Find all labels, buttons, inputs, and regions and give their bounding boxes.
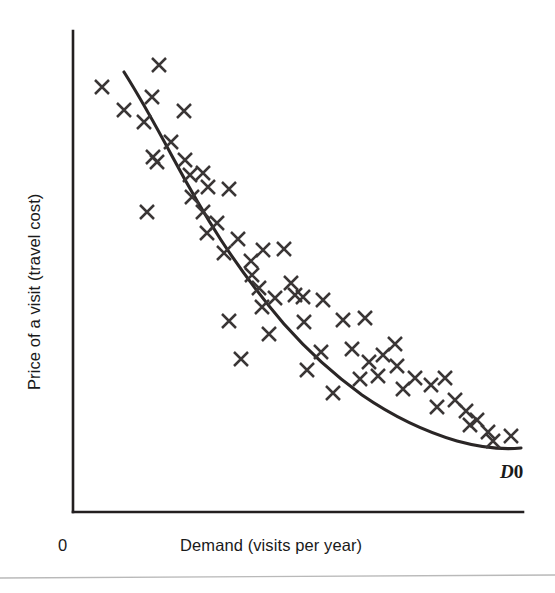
scatter-marker <box>388 337 402 351</box>
scatter-marker <box>256 243 270 257</box>
scatter-marker <box>277 242 291 256</box>
scatter-marker <box>152 58 166 72</box>
scatter-marker <box>353 372 367 386</box>
scatter-marker <box>117 103 131 117</box>
scatter-marker <box>150 155 164 169</box>
scatter-marker <box>362 355 376 369</box>
demand-curve-label-number: 0 <box>514 461 524 482</box>
scatter-marker <box>390 359 404 373</box>
scatter-marker <box>222 314 236 328</box>
scatter-marker <box>196 166 210 180</box>
scatter-marker <box>183 168 197 182</box>
scatter-marker <box>358 311 372 325</box>
scatter-marker <box>297 315 311 329</box>
scatter-marker <box>438 371 452 385</box>
scatter-marker <box>268 291 282 305</box>
scatter-marker <box>459 404 473 418</box>
demand-curve-chart: Price of a visit (travel cost) Demand (v… <box>0 0 555 593</box>
scatter-marker <box>196 205 210 219</box>
chart-figure: Price of a visit (travel cost) Demand (v… <box>0 0 555 593</box>
footer-divider <box>0 575 555 578</box>
scatter-marker <box>504 429 518 443</box>
y-axis-label: Price of a visit (travel cost) <box>25 194 43 390</box>
demand-curve-path <box>124 72 521 449</box>
scatter-marker <box>314 345 328 359</box>
scatter-marker <box>463 418 477 432</box>
scatter-marker <box>430 400 444 414</box>
scatter-marker <box>140 205 154 219</box>
scatter-marker <box>234 352 248 366</box>
scatter-marker <box>396 382 410 396</box>
scatter-marker <box>145 90 159 104</box>
scatter-marker <box>201 180 215 194</box>
scatter-marker <box>371 369 385 383</box>
scatter-marker <box>345 342 359 356</box>
scatter-marker <box>316 293 330 307</box>
scatter-marker <box>231 232 245 246</box>
scatter-marker <box>284 276 298 290</box>
scatter-marker <box>424 378 438 392</box>
scatter-marker <box>336 313 350 327</box>
scatter-marker-group <box>95 58 518 448</box>
scatter-marker <box>177 104 191 118</box>
scatter-marker <box>137 115 151 129</box>
scatter-marker <box>262 327 276 341</box>
scatter-marker <box>300 363 314 377</box>
x-axis-label: Demand (visits per year) <box>180 536 362 554</box>
scatter-marker <box>178 153 192 167</box>
demand-curve-label-letter: D <box>499 461 514 482</box>
scatter-marker <box>200 226 214 240</box>
scatter-marker <box>222 182 236 196</box>
origin-label: 0 <box>58 536 67 554</box>
scatter-marker <box>326 386 340 400</box>
scatter-marker <box>255 300 269 314</box>
scatter-marker <box>95 80 109 94</box>
demand-curve-label: D0 <box>499 461 523 482</box>
